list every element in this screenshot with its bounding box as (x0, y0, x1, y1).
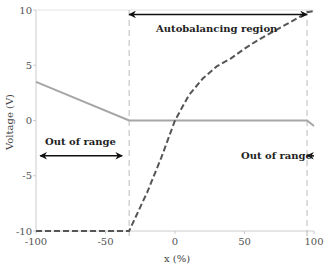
annotation-label: Out of range (241, 150, 312, 161)
y-tick-label: 0 (26, 115, 32, 126)
x-tick-label: 50 (238, 236, 251, 247)
y-tick-label: -5 (22, 170, 32, 181)
voltage-chart: Autobalancing regionOut of rangeOut of r… (0, 0, 330, 268)
annotation-label: Autobalancing region (155, 23, 278, 34)
x-tick-label: -50 (97, 236, 113, 247)
x-tick-label: 100 (304, 236, 323, 247)
tick-labels: -100-50050100-10-50510 (16, 5, 324, 248)
series-group (36, 11, 314, 231)
y-tick-label: 5 (26, 60, 32, 71)
annotations: Autobalancing regionOut of rangeOut of r… (40, 14, 314, 161)
x-axis-title: x (%) (164, 253, 190, 264)
annotation-label: Out of range (45, 136, 116, 147)
solid-voltage-line (36, 82, 314, 126)
y-axis-title: Voltage (V) (4, 94, 15, 151)
x-tick-label: 0 (172, 236, 178, 247)
x-tick-label: -100 (25, 236, 47, 247)
boundary-lines (129, 10, 307, 236)
y-tick-label: 10 (19, 5, 32, 16)
y-tick-label: -10 (16, 226, 32, 237)
